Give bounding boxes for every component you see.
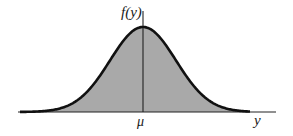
normal-distribution-figure: f(y) μ y [0, 0, 293, 136]
y-axis-label: f(y) [121, 4, 142, 21]
mean-tick-label: μ [137, 114, 144, 130]
x-axis-label: y [254, 112, 261, 129]
shaded-area [20, 27, 250, 112]
density-plot [0, 0, 293, 136]
